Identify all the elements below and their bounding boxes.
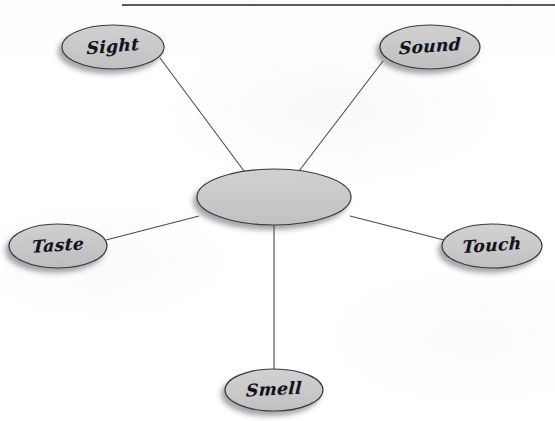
node-ellipse-taste[interactable] xyxy=(9,224,107,268)
node-ellipse-sight[interactable] xyxy=(62,25,164,69)
node-ellipse-sound[interactable] xyxy=(380,25,480,69)
worksheet-canvas: Sight Sound Taste Touch Smell xyxy=(0,0,555,421)
node-shapes xyxy=(9,25,542,411)
connector-sight xyxy=(160,58,244,171)
concept-map-diagram xyxy=(0,0,555,421)
node-ellipse-smell[interactable] xyxy=(225,369,323,411)
connector-taste xyxy=(106,216,199,240)
connector-touch xyxy=(350,216,444,240)
center-node-ellipse[interactable] xyxy=(197,169,351,225)
connector-sound xyxy=(299,61,383,171)
node-ellipse-touch[interactable] xyxy=(442,224,542,268)
